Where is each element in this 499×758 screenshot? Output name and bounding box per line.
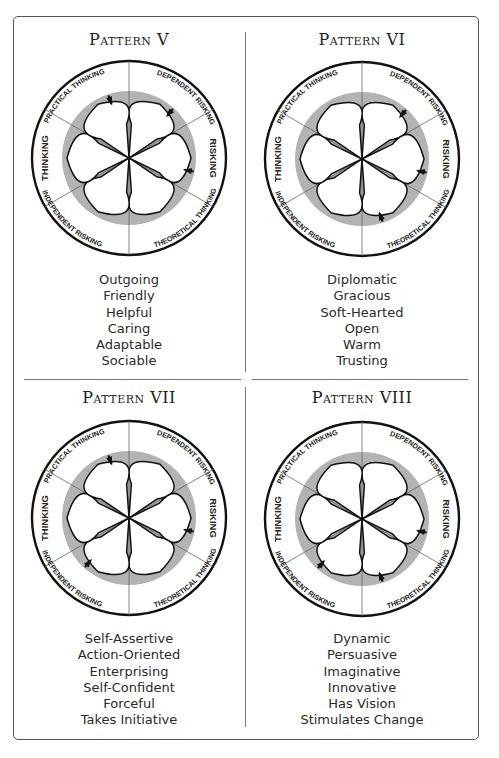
- trait: Persuasive: [246, 647, 478, 663]
- trait-list: Diplomatic Gracious Soft-Hearted Open Wa…: [246, 272, 478, 370]
- label-risking: RISKING: [208, 498, 219, 538]
- trait: Action-Oriented: [13, 647, 245, 663]
- pattern-panel-8: Pattern VIII PRACTICAL THINKINGDEPENDENT…: [246, 380, 478, 740]
- wheel-diagram: PRACTICAL THINKINGDEPENDENT RISKINGINDEP…: [29, 56, 229, 262]
- pattern-wheel: PRACTICAL THINKINGDEPENDENT RISKINGINDEP…: [262, 417, 462, 627]
- pattern-panel-6: Pattern VI PRACTICAL THINKINGDEPENDENT R…: [246, 16, 478, 379]
- trait: Diplomatic: [246, 272, 478, 288]
- trait: Imaginative: [246, 664, 478, 680]
- trait: Open: [246, 321, 478, 337]
- label-risking: RISKING: [441, 499, 452, 539]
- pattern-title: Pattern VI: [246, 30, 478, 49]
- pattern-wheel: PRACTICAL THINKINGDEPENDENT RISKINGINDEP…: [262, 57, 462, 267]
- trait: Has Vision: [246, 696, 478, 712]
- trait: Helpful: [13, 305, 245, 321]
- pattern-wheel: PRACTICAL THINKINGDEPENDENT RISKINGINDEP…: [29, 416, 229, 626]
- pattern-title: Pattern VII: [13, 388, 245, 407]
- pattern-panel-7: Pattern VII PRACTICAL THINKINGDEPENDENT …: [13, 380, 245, 740]
- trait-list: Dynamic Persuasive Imaginative Innovativ…: [246, 631, 478, 729]
- trait: Outgoing: [13, 272, 245, 288]
- trait: Soft-Hearted: [246, 305, 478, 321]
- trait: Self-Confident: [13, 680, 245, 696]
- trait: Caring: [13, 321, 245, 337]
- pattern-title: Pattern VIII: [246, 388, 478, 407]
- label-risking: RISKING: [208, 138, 219, 178]
- trait-list: Self-Assertive Action-Oriented Enterpris…: [13, 631, 245, 729]
- wheel-diagram: PRACTICAL THINKINGDEPENDENT RISKINGINDEP…: [262, 57, 462, 263]
- trait: Warm: [246, 337, 478, 353]
- wheel-diagram: PRACTICAL THINKINGDEPENDENT RISKINGINDEP…: [29, 416, 229, 622]
- wheel-diagram: PRACTICAL THINKINGDEPENDENT RISKINGINDEP…: [262, 417, 462, 623]
- trait: Trusting: [246, 353, 478, 369]
- trait: Sociable: [13, 353, 245, 369]
- trait: Takes Initiative: [13, 712, 245, 728]
- label-risking: RISKING: [441, 139, 452, 179]
- trait: Dynamic: [246, 631, 478, 647]
- trait: Adaptable: [13, 337, 245, 353]
- trait: Forceful: [13, 696, 245, 712]
- pattern-panel-5: Pattern V PRACTICAL THINKINGDEPENDENT RI…: [13, 16, 245, 379]
- label-thinking: THINKING: [39, 495, 50, 541]
- trait: Friendly: [13, 288, 245, 304]
- label-thinking: THINKING: [272, 136, 283, 182]
- trait: Gracious: [246, 288, 478, 304]
- trait-list: Outgoing Friendly Helpful Caring Adaptab…: [13, 272, 245, 370]
- label-thinking: THINKING: [39, 135, 50, 181]
- pattern-wheel: PRACTICAL THINKINGDEPENDENT RISKINGINDEP…: [29, 56, 229, 266]
- trait: Stimulates Change: [246, 712, 478, 728]
- trait: Self-Assertive: [13, 631, 245, 647]
- label-thinking: THINKING: [272, 496, 283, 542]
- trait: Innovative: [246, 680, 478, 696]
- trait: Enterprising: [13, 664, 245, 680]
- pattern-title: Pattern V: [13, 30, 245, 49]
